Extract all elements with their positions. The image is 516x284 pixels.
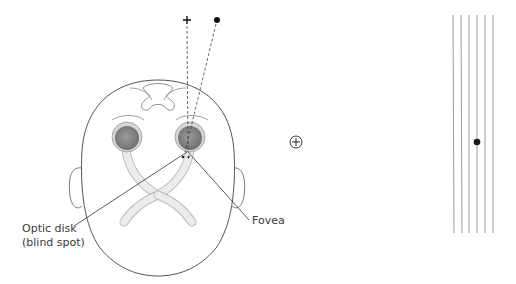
optic-disk-label-line2: (blind spot): [22, 236, 85, 250]
blind-spot-dot-icon: [214, 17, 220, 23]
optic-disk-marker: [182, 156, 185, 159]
vertical-lines-grid: [453, 15, 493, 233]
optic-disk-label: Optic disk (blind spot): [22, 222, 85, 250]
fixation-cross-icon: [183, 16, 191, 24]
blind-spot-diagram: Optic disk (blind spot) Fovea: [0, 0, 516, 284]
left-eye: [112, 122, 142, 152]
fovea-label: Fovea: [252, 214, 285, 228]
grid-blind-spot-dot-icon: [474, 139, 481, 146]
circled-plus-fixation-icon: [290, 136, 302, 148]
right-eye: [175, 122, 205, 152]
optic-disk-label-line1: Optic disk: [22, 222, 85, 236]
